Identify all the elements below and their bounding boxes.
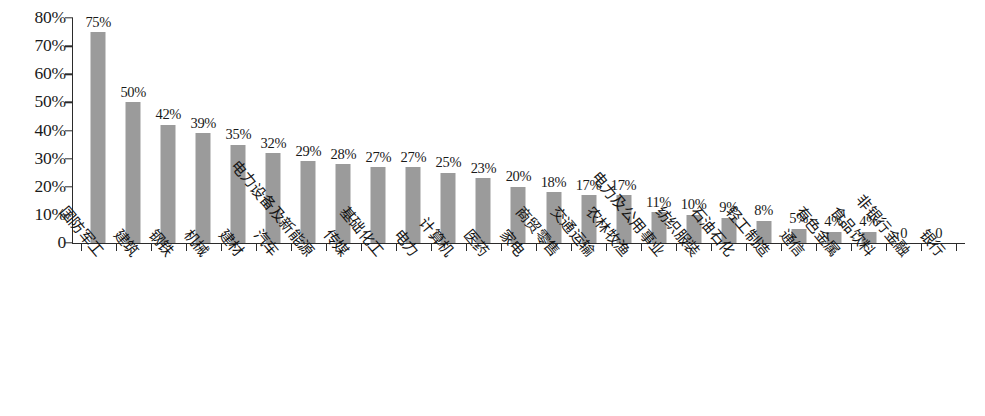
bar[interactable] xyxy=(196,133,211,243)
bar-value-label: 23% xyxy=(471,161,497,176)
bar-group[interactable]: 35% xyxy=(221,18,256,243)
bar[interactable] xyxy=(406,167,421,243)
bar-value-label: 28% xyxy=(331,147,357,162)
y-axis-tick-mark xyxy=(65,242,73,243)
bar-value-label: 39% xyxy=(190,116,216,131)
x-axis-tick-mark xyxy=(816,243,817,251)
bar-group[interactable]: 29% xyxy=(291,18,326,243)
bar[interactable] xyxy=(371,167,386,243)
bar-group[interactable]: 27% xyxy=(361,18,396,243)
x-axis-tick-mark xyxy=(746,243,747,251)
x-axis-tick-mark xyxy=(851,243,852,251)
x-axis-tick-mark xyxy=(291,243,292,251)
x-axis-tick-mark xyxy=(186,243,187,251)
bar-value-label: 29% xyxy=(296,144,322,159)
bar-group[interactable]: 39% xyxy=(186,18,221,243)
y-axis-tick-label: 10% xyxy=(0,206,66,224)
x-axis-tick-mark xyxy=(536,243,537,251)
x-axis-tick-mark xyxy=(466,243,467,251)
bar-group[interactable]: 8% xyxy=(746,18,781,243)
x-axis-tick-mark xyxy=(641,243,642,251)
y-axis-tick-label: 40% xyxy=(0,122,66,140)
x-axis-tick-mark xyxy=(676,243,677,251)
bar[interactable] xyxy=(126,102,141,243)
x-axis-tick-mark xyxy=(956,243,957,251)
bar-group[interactable]: 23% xyxy=(466,18,501,243)
bar-value-label: 8% xyxy=(754,203,773,218)
y-axis-tick-mark xyxy=(65,17,73,18)
bar-group[interactable]: 0 xyxy=(921,18,956,243)
bar-group[interactable]: 75% xyxy=(81,18,116,243)
bar-group[interactable]: 27% xyxy=(396,18,431,243)
x-axis-tick-mark xyxy=(221,243,222,251)
y-axis-tick-label: 60% xyxy=(0,66,66,84)
y-axis-tick-label: 70% xyxy=(0,37,66,55)
x-axis-tick-mark xyxy=(921,243,922,251)
x-axis-category-labels: 国防军工建筑钢铁机械建材汽车电力设备及新能源传媒基础化工电力计算机医药家电商贸零… xyxy=(72,252,965,416)
x-axis-tick-mark xyxy=(81,243,82,251)
bar-chart: 80%70%60%50%40%30%20%10%0 75%50%42%39%35… xyxy=(0,0,985,416)
x-axis-tick-mark xyxy=(886,243,887,251)
y-axis-tick-label: 50% xyxy=(0,94,66,112)
bar-value-label: 25% xyxy=(436,155,462,170)
bar[interactable] xyxy=(91,32,106,243)
x-axis-tick-mark xyxy=(781,243,782,251)
bar-value-label: 35% xyxy=(225,127,251,142)
y-axis-tick-mark xyxy=(65,45,73,46)
x-axis-tick-mark xyxy=(116,243,117,251)
y-axis-tick-mark xyxy=(65,74,73,75)
bar-group[interactable]: 50% xyxy=(116,18,151,243)
bar[interactable] xyxy=(161,125,176,243)
y-axis-tick-label: 30% xyxy=(0,150,66,168)
bar-value-label: 42% xyxy=(155,107,181,122)
bar[interactable] xyxy=(301,161,316,243)
x-axis-tick-mark xyxy=(256,243,257,251)
x-axis-tick-mark xyxy=(571,243,572,251)
y-axis-tick-mark xyxy=(65,214,73,215)
x-axis-tick-mark xyxy=(151,243,152,251)
bar-value-label: 50% xyxy=(120,85,146,100)
y-axis-tick-mark xyxy=(65,102,73,103)
y-axis-tick-label: 0 xyxy=(0,234,66,252)
y-axis-tick-mark xyxy=(65,186,73,187)
y-axis-tick-mark xyxy=(65,158,73,159)
bar-group[interactable]: 42% xyxy=(151,18,186,243)
bar-value-label: 20% xyxy=(506,169,532,184)
bar-value-label: 18% xyxy=(541,175,567,190)
bar-group[interactable]: 25% xyxy=(431,18,466,243)
bar-group[interactable]: 0 xyxy=(886,18,921,243)
y-axis-tick-label: 80% xyxy=(0,9,66,27)
x-axis-tick-mark xyxy=(606,243,607,251)
x-axis-tick-mark xyxy=(711,243,712,251)
bar-value-label: 75% xyxy=(85,15,111,30)
bar-value-label: 27% xyxy=(401,150,427,165)
x-axis-tick-mark xyxy=(431,243,432,251)
x-axis-tick-mark xyxy=(501,243,502,251)
x-axis-tick-mark xyxy=(361,243,362,251)
x-axis-tick-mark xyxy=(396,243,397,251)
y-axis-tick-mark xyxy=(65,130,73,131)
y-axis-tick-label: 20% xyxy=(0,178,66,196)
bar-value-label: 32% xyxy=(261,136,287,151)
x-axis-tick-mark xyxy=(326,243,327,251)
bar-value-label: 27% xyxy=(366,150,392,165)
